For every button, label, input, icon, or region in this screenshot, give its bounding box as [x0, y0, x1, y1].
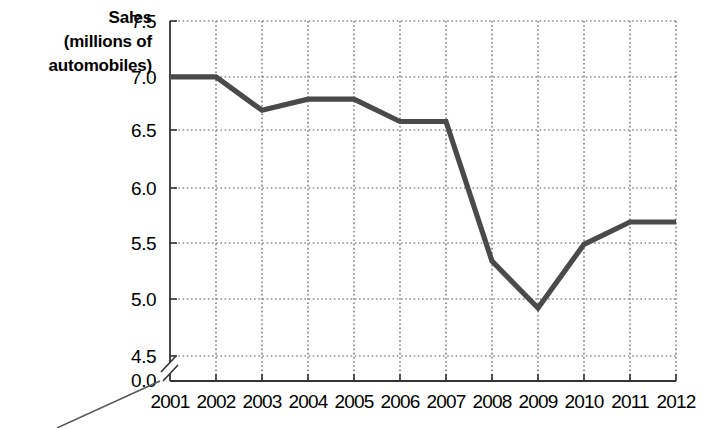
x-axis-ticks	[216, 374, 676, 381]
horizontal-gridlines	[170, 21, 676, 356]
vertical-gridlines	[216, 21, 676, 380]
y-axis-ticks	[170, 21, 177, 356]
line-chart: Sales (millions of automobiles) 7.5 7.0 …	[0, 0, 707, 428]
sales-line-series	[170, 77, 676, 308]
leader-line	[57, 381, 160, 428]
plot-area	[0, 0, 707, 428]
